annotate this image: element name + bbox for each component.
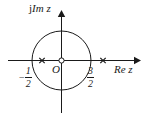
fraction-denominator: 2 bbox=[25, 79, 32, 89]
imaginary-axis-arrowhead bbox=[58, 10, 65, 17]
tick-label-three-halves: 3 2 bbox=[87, 66, 94, 89]
tick-label-neg-one-half: − 1 2 bbox=[19, 66, 32, 89]
fraction-numerator: 1 bbox=[25, 66, 32, 76]
real-axis-label: Re z bbox=[114, 64, 133, 75]
plot-canvas bbox=[0, 0, 145, 123]
fraction-numerator: 3 bbox=[87, 66, 94, 76]
real-axis-label-var: z bbox=[128, 63, 132, 75]
imaginary-axis-label-var: z bbox=[46, 2, 50, 14]
fraction-three-halves: 3 2 bbox=[87, 66, 94, 89]
fraction-denominator: 2 bbox=[87, 79, 94, 89]
real-axis-arrowhead bbox=[134, 57, 141, 64]
real-axis-label-re: Re bbox=[114, 63, 126, 75]
complex-plane-figure: jIm z Re z O − 1 2 3 2 bbox=[0, 0, 145, 123]
imaginary-axis-label: jIm z bbox=[29, 3, 51, 14]
fraction-one-half: 1 2 bbox=[25, 66, 32, 89]
imaginary-axis-label-im: Im bbox=[32, 2, 44, 14]
origin-label: O bbox=[52, 64, 60, 75]
